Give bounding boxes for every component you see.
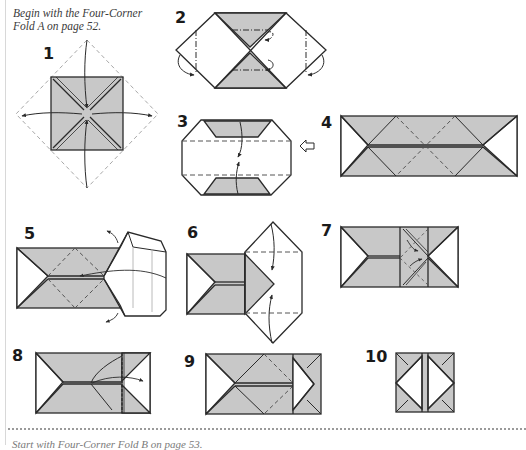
- step-6-diagram: [187, 222, 302, 343]
- step-10-diagram: [396, 353, 454, 412]
- footer-instruction: Start with Four-Corner Fold B on page 53…: [12, 438, 202, 450]
- footer-divider: [8, 428, 526, 430]
- step-8-diagram: [36, 353, 150, 413]
- step-3-diagram: [182, 120, 291, 195]
- step-5-diagram: [17, 231, 166, 322]
- hollow-arrow-icon: [300, 140, 314, 152]
- step-4-diagram: [341, 116, 517, 176]
- step-7-diagram: [341, 227, 458, 287]
- step-2-diagram: [176, 13, 326, 88]
- step-1-diagram: [16, 40, 158, 188]
- step-9-diagram: [206, 354, 321, 414]
